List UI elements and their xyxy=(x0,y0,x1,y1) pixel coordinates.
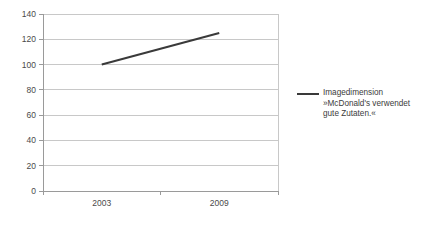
y-tick-label: 20 xyxy=(27,161,37,171)
y-tick-label: 120 xyxy=(22,34,36,44)
y-axis xyxy=(39,14,43,191)
y-tick-label: 0 xyxy=(31,186,36,196)
plot-area-background xyxy=(43,14,278,191)
y-tick-label: 40 xyxy=(27,135,37,145)
y-tick-label: 100 xyxy=(22,60,36,70)
legend-item-label: Imagedimension »McDonald's verwendet gut… xyxy=(323,88,410,120)
y-tick-label: 60 xyxy=(27,110,37,120)
legend-color-swatch xyxy=(297,93,319,95)
legend-item: Imagedimension »McDonald's verwendet gut… xyxy=(297,88,437,120)
y-axis-tick-labels: 020406080100120140 xyxy=(22,9,36,196)
y-tick-label: 140 xyxy=(22,9,36,19)
chart-container: 020406080100120140 20032009 Imagedimensi… xyxy=(0,0,438,225)
x-axis xyxy=(43,191,278,195)
x-tick-label: 2009 xyxy=(210,198,229,208)
x-tick-label: 2003 xyxy=(92,198,111,208)
y-tick-label: 80 xyxy=(27,85,37,95)
x-axis-tick-labels: 20032009 xyxy=(92,198,229,208)
chart-legend: Imagedimension »McDonald's verwendet gut… xyxy=(297,88,437,120)
